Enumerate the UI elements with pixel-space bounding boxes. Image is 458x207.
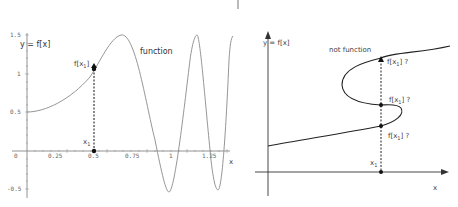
right-y-arrow-icon — [265, 31, 271, 39]
x-tick-0-25: 0.25 — [48, 152, 63, 159]
y-tick-1-5: 1.5 — [10, 31, 21, 38]
right-x-arrow-icon — [441, 169, 449, 175]
left-curve-label: function — [140, 47, 173, 56]
right-fx1-label-bottom: f[x1] ? — [388, 132, 409, 141]
right-x1-point — [379, 170, 383, 174]
y-tick-1: 1 — [17, 70, 21, 77]
x-tick-0-75: 0.75 — [125, 152, 140, 159]
function-curve — [27, 35, 233, 192]
y-tick-0-5: 0.5 — [10, 108, 21, 115]
left-y-equals-fx-label: y = f[x] — [20, 40, 50, 49]
right-intersection-2 — [379, 103, 383, 107]
left-x1-point — [92, 149, 96, 153]
right-fx1-label-middle: f[x1] ? — [389, 96, 410, 105]
diagram-canvas: 0 0.25 0.5 0.75 1 1.25 1.5 1 0.5 -0.5 y … — [0, 0, 458, 207]
right-x1-label: x1 — [370, 159, 377, 168]
x-tick-1-25: 1.25 — [202, 152, 217, 159]
right-intersection-3 — [379, 124, 383, 128]
x-tick-0: 0 — [14, 152, 18, 159]
left-plot: 0 0.25 0.5 0.75 1 1.25 1.5 1 0.5 -0.5 y … — [7, 31, 233, 198]
right-x-axis-label: x — [433, 184, 437, 192]
right-y-equals-fx-label: y = f[x] — [263, 39, 290, 47]
right-curve-label: not function — [329, 46, 371, 54]
not-function-curve — [268, 46, 450, 146]
x-tick-1: 1 — [169, 152, 173, 159]
left-fx1-label: f[x1] — [74, 60, 90, 69]
left-arrow-head-icon — [91, 63, 97, 68]
right-fx1-label-top: f[x1] ? — [387, 58, 408, 67]
y-tick-neg-0-5: -0.5 — [7, 185, 22, 192]
right-plot: y = f[x] not function f[x1] ? f[x1] ? f[… — [255, 31, 450, 196]
left-x1-label: x1 — [83, 138, 90, 147]
left-x-axis-label: x — [229, 158, 233, 166]
